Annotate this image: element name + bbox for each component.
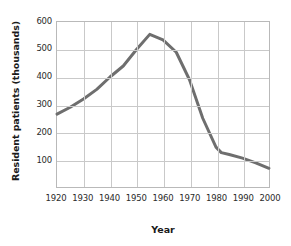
- gridline-horizontal: [57, 106, 269, 107]
- line-chart-figure: Resident patients (thousands) 1002003004…: [0, 0, 291, 246]
- gridline-vertical: [111, 22, 112, 187]
- gridline-vertical: [244, 22, 245, 187]
- gridline-vertical: [164, 22, 165, 187]
- y-axis-tick-label: 600: [18, 17, 52, 26]
- series-polyline: [57, 34, 269, 168]
- gridline-horizontal: [57, 133, 269, 134]
- y-axis-tick-label: 200: [18, 128, 52, 137]
- gridline-horizontal: [57, 78, 269, 79]
- gridline-vertical: [218, 22, 219, 187]
- y-axis-tick-label: 500: [18, 44, 52, 53]
- gridline-horizontal: [57, 161, 269, 162]
- x-axis-title: Year: [55, 224, 271, 235]
- y-axis-tick-label: 100: [18, 156, 52, 165]
- gridline-vertical: [84, 22, 85, 187]
- x-axis-tick-labels: 192019301940195019601970198019902000: [56, 193, 270, 205]
- gridline-vertical: [137, 22, 138, 187]
- y-axis-tick-label: 300: [18, 100, 52, 109]
- y-axis-tick-labels: 100200300400500600: [14, 21, 52, 188]
- data-series-line: [57, 22, 269, 187]
- y-axis-tick-label: 400: [18, 72, 52, 81]
- gridline-vertical: [191, 22, 192, 187]
- gridline-horizontal: [57, 50, 269, 51]
- x-axis-tick-label: 2000: [253, 193, 287, 203]
- plot-area: [56, 21, 270, 188]
